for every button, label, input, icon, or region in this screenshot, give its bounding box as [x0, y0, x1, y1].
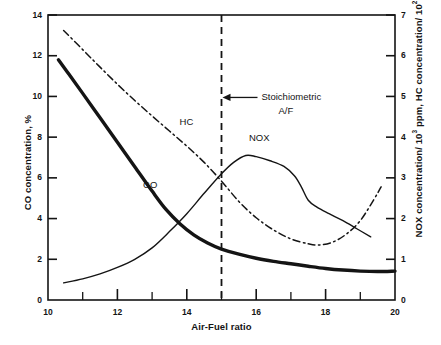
y-tick-label-right-0: 0	[401, 295, 421, 305]
y-tick-label-right-4: 4	[401, 132, 421, 142]
y-tick-label-right-5: 5	[401, 91, 421, 101]
y-tick-label-left-10: 10	[22, 91, 42, 101]
y-tick-label-left-2: 2	[22, 254, 42, 264]
y-axis-right-hc-suffix: ppm	[413, 0, 424, 1]
x-tick-label-20: 20	[383, 307, 407, 317]
y-tick-label-right-7: 7	[401, 10, 421, 20]
y-tick-label-left-4: 4	[22, 213, 42, 223]
y-tick-label-left-12: 12	[22, 50, 42, 60]
curve-label-nox: NOX	[249, 132, 270, 143]
y-tick-label-left-0: 0	[22, 295, 42, 305]
x-tick-label-16: 16	[244, 307, 268, 317]
x-tick-label-10: 10	[36, 307, 60, 317]
x-tick-label-14: 14	[175, 307, 199, 317]
x-tick-label-18: 18	[314, 307, 338, 317]
x-tick-label-12: 12	[105, 307, 129, 317]
y-axis-right-nox-suffix: ppm, HC concentration/ 10	[413, 4, 424, 130]
chart-plot-area	[0, 0, 441, 345]
chart-figure: CO concentration, % NOX concentration/ 1…	[0, 0, 441, 345]
curve-label-hc: HC	[180, 116, 194, 127]
stoichiometric-label-line1: Stoichiometric	[262, 91, 322, 102]
x-axis-title: Air-Fuel ratio	[48, 321, 395, 332]
y-tick-label-right-6: 6	[401, 50, 421, 60]
y-tick-label-left-14: 14	[22, 10, 42, 20]
y-tick-label-right-1: 1	[401, 254, 421, 264]
y-tick-label-right-3: 3	[401, 172, 421, 182]
stoichiometric-label-line2: A/F	[279, 105, 294, 116]
y-tick-label-left-6: 6	[22, 172, 42, 182]
y-tick-label-left-8: 8	[22, 132, 42, 142]
y-tick-label-right-2: 2	[401, 213, 421, 223]
curve-label-co: CO	[143, 179, 157, 190]
y-axis-right-hc-exponent: 2	[411, 1, 418, 5]
